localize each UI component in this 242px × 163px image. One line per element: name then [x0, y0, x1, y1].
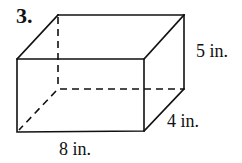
rectangular-prism-figure	[0, 0, 242, 163]
hidden-left-bottom-edge	[19, 91, 56, 130]
problem-number: 3.	[16, 5, 33, 27]
length-label: 8 in.	[59, 140, 91, 158]
front-face	[17, 59, 144, 132]
top-right-edge	[144, 15, 184, 59]
width-label: 4 in.	[167, 112, 199, 130]
prism-diagram	[0, 0, 242, 163]
height-label: 5 in.	[196, 42, 228, 60]
